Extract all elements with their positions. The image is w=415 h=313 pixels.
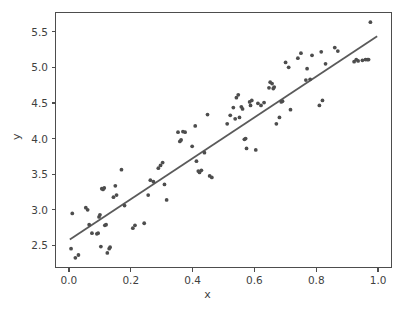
y-tick-label: 5.5: [14, 26, 48, 38]
y-tick-label: 2.5: [14, 239, 48, 251]
y-tick-mark: [52, 102, 56, 103]
y-tick-label: 5.0: [14, 61, 48, 73]
x-axis-label: x: [0, 288, 415, 301]
x-tick-label: 0.0: [61, 274, 78, 286]
x-tick-mark: [68, 268, 69, 272]
x-tick-mark: [130, 268, 131, 272]
x-tick-label: 1.0: [370, 274, 387, 286]
y-tick-mark: [52, 138, 56, 139]
x-tick-mark: [377, 268, 378, 272]
y-tick-mark: [52, 245, 56, 246]
y-tick-label: 3.5: [14, 168, 48, 180]
x-tick-label: 0.2: [122, 274, 139, 286]
regression-line: [70, 36, 377, 239]
x-tick-mark: [316, 268, 317, 272]
y-tick-mark: [52, 174, 56, 175]
x-tick-mark: [254, 268, 255, 272]
x-tick-label: 0.4: [184, 274, 201, 286]
y-tick-label: 4.5: [14, 97, 48, 109]
y-tick-mark: [52, 67, 56, 68]
x-tick-label: 0.6: [246, 274, 263, 286]
y-tick-mark: [52, 209, 56, 210]
x-tick-label: 0.8: [308, 274, 325, 286]
y-tick-mark: [52, 31, 56, 32]
x-tick-mark: [192, 268, 193, 272]
y-axis-label: y: [10, 133, 23, 140]
y-tick-label: 3.0: [14, 204, 48, 216]
scatter-plot-figure: 2.53.03.54.04.55.05.5 0.00.20.40.60.81.0…: [0, 0, 415, 313]
plot-area: [55, 12, 392, 268]
data-canvas: [56, 13, 391, 267]
